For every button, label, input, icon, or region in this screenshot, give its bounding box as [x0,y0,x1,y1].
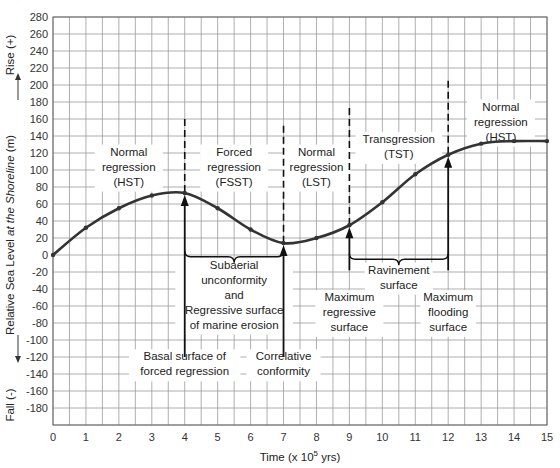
stage-label: Normalregression(HST) [467,100,535,147]
data-point [84,226,88,230]
y-tick-label: 60 [36,198,48,210]
data-point [248,227,252,231]
label-line: (TST) [384,148,414,160]
data-point [512,139,516,143]
label-line: Normal [482,101,519,113]
stage-label: Forcedregression(FSST) [200,145,268,192]
sea-level-chart: 280260240220200180160140120100806040200-… [0,0,560,468]
label-line: conformity [257,365,310,377]
stage-label: Transgression(TST) [356,132,443,164]
x-tick-label: 6 [248,431,254,443]
label-line: Maximum [423,291,473,303]
y-tick-label: -120 [26,351,48,363]
y-tick-label: 160 [30,113,48,125]
y-tick-label: -40 [32,283,48,295]
surface-label: SubaerialunconformityandRegressive surfa… [175,258,293,335]
label-line: and [225,289,244,301]
y-tick-label: -180 [26,402,48,414]
label-line: surface [429,321,467,333]
x-tick-label: 4 [182,431,188,443]
data-point [183,191,187,195]
y-tick-label: 40 [36,215,48,227]
label-line: (FSST) [216,176,253,188]
y-tick-label: -80 [32,317,48,329]
label-line: Normal [298,146,335,158]
y-tick-label: -140 [26,368,48,380]
data-point [545,139,549,143]
x-tick-label: 11 [410,431,421,443]
arrow-head-icon [181,195,189,206]
y-tick-label: 100 [30,164,48,176]
rise-text: Rise (+) [4,35,16,76]
data-point [117,206,121,210]
x-tick-label: 1 [83,431,89,443]
y-axis-ticks: 280260240220200180160140120100806040200-… [26,11,48,414]
label-line: unconformity [201,274,267,286]
y-tick-label: 0 [42,249,48,261]
y-tick-label: 80 [36,181,48,193]
data-point [479,141,483,145]
label-line: of marine erosion [190,319,279,331]
label-line: surface [380,279,418,291]
x-tick-label: 3 [149,431,155,443]
y-tick-label: 280 [30,11,48,23]
y-tick-label: -100 [26,334,48,346]
label-line: flooding [428,306,468,318]
y-tick-label: -60 [32,300,48,312]
data-point [380,200,384,204]
label-line: forced regression [140,365,229,377]
x-tick-label: 14 [508,431,520,443]
y-tick-label: -160 [26,385,48,397]
label-line: Normal [110,146,147,158]
label-line: (LST) [302,176,331,188]
x-tick-label: 7 [280,431,286,443]
arrow-head-icon [280,245,288,256]
x-tick-label: 0 [50,431,56,443]
data-point [150,193,154,197]
label-line: Regressive surface [185,304,283,316]
label-line: surface [331,321,369,333]
y-tick-label: 120 [30,147,48,159]
y-tick-label: 20 [36,232,48,244]
data-point [446,153,450,157]
data-point [347,223,351,227]
x-tick-label: 2 [116,431,122,443]
y-tick-label: -20 [32,266,48,278]
label-line: Maximum [324,291,374,303]
fall-text: Fall (-) [4,388,16,421]
stage-label: Normalregression(HST) [95,145,163,192]
label-line: Ravinement [368,264,430,276]
label-line: regression [102,161,156,173]
data-point [413,172,417,176]
label-line: regression [474,116,528,128]
arrow-head-icon [444,157,452,168]
y-tick-label: 200 [30,79,48,91]
x-axis-ticks: 0123456789101112131415 [50,431,553,443]
y-axis-label-text: Relative Sea Level at the Shoreline (m) [4,135,16,335]
label-line: regressive [323,306,376,318]
arrow-head-icon [345,227,353,238]
fall-label: Fall (-) [4,388,16,421]
x-tick-label: 15 [541,431,553,443]
x-axis-label: Time (x 105 yrs) [260,449,341,463]
x-tick-label: 9 [346,431,352,443]
data-point [314,236,318,240]
data-point [281,241,285,245]
label-line: (HST) [113,176,144,188]
y-tick-label: 180 [30,96,48,108]
rise-label: Rise (+) [4,35,16,76]
x-tick-label: 13 [475,431,487,443]
y-axis-label: Relative Sea Level at the Shoreline (m) [4,135,16,335]
y-tick-label: 240 [30,45,48,57]
x-tick-label: 10 [376,431,388,443]
label-line: Transgression [363,133,435,145]
surface-label: Maximumfloodingsurface [420,290,476,337]
y-tick-label: 140 [30,130,48,142]
stage-label: Normalregression(LST) [282,145,350,192]
data-point [215,206,219,210]
fall-arrow-icon [15,356,21,363]
surface-label: Maximumregressivesurface [315,290,383,337]
x-tick-label: 5 [215,431,221,443]
y-tick-label: 220 [30,62,48,74]
surface-annotations: SubaerialunconformityandRegressive surfa… [129,258,476,382]
